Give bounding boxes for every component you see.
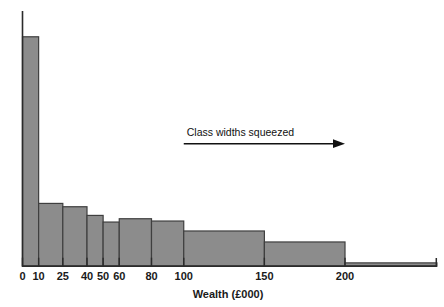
histogram-chart: 0102540506080100150200 Wealth (£000) Cla… [0, 0, 444, 307]
histogram-bar [63, 207, 87, 266]
histogram-bar [87, 215, 103, 266]
histogram-bar [103, 222, 119, 266]
x-axis-tick-label: 80 [145, 270, 157, 282]
x-axis-tick-label: 40 [81, 270, 93, 282]
x-axis-tick-label: 50 [97, 270, 109, 282]
x-axis-tick-label: 0 [19, 270, 25, 282]
histogram-bar [264, 242, 345, 266]
x-axis-tick-label: 200 [336, 270, 354, 282]
x-axis-tick-label: 150 [255, 270, 273, 282]
histogram-bar [184, 231, 265, 266]
histogram-bar [152, 221, 184, 266]
chart-canvas: 0102540506080100150200 Wealth (£000) Cla… [0, 0, 444, 307]
x-axis-title: Wealth (£000) [193, 288, 264, 300]
annotation-label: Class widths squeezed [187, 126, 295, 138]
histogram-bar [119, 219, 151, 266]
x-axis-tick-label: 10 [33, 270, 45, 282]
histogram-bar [23, 37, 39, 266]
x-axis-tick-label: 60 [113, 270, 125, 282]
x-axis-tick-label: 100 [175, 270, 193, 282]
x-axis-tick-label: 25 [57, 270, 69, 282]
histogram-bar [39, 203, 63, 266]
